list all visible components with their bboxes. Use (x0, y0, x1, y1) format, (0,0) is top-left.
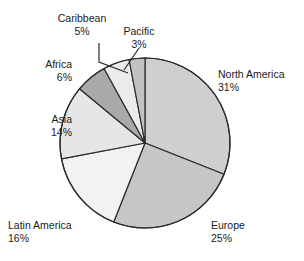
pie-slice-group (60, 58, 230, 228)
slice-label-asia-name: Asia (24, 113, 72, 126)
slice-label-pacific-name: Pacific (113, 25, 165, 38)
slice-label-latin-america-name: Latin America (8, 219, 72, 232)
slice-label-pacific: Pacific 3% (113, 25, 165, 51)
slice-label-latin-america-value: 16% (8, 232, 72, 245)
slice-label-africa-name: Africa (22, 58, 72, 71)
slice-label-latin-america: Latin America 16% (8, 219, 72, 245)
slice-label-north-america-name: North America (218, 68, 285, 81)
slice-label-europe-value: 25% (211, 232, 245, 245)
slice-label-pacific-value: 3% (113, 38, 165, 51)
slice-label-europe-name: Europe (211, 219, 245, 232)
slice-label-caribbean-name: Caribbean (46, 12, 118, 25)
slice-label-africa-value: 6% (22, 71, 72, 84)
slice-label-north-america: North America 31% (218, 68, 285, 94)
slice-label-caribbean: Caribbean 5% (46, 12, 118, 38)
pie-chart-figure: North America 31% Europe 25% Latin Ameri… (0, 0, 304, 261)
slice-label-asia-value: 14% (24, 126, 72, 139)
slice-label-north-america-value: 31% (218, 81, 285, 94)
slice-label-europe: Europe 25% (211, 219, 245, 245)
slice-label-africa: Africa 6% (22, 58, 72, 84)
slice-label-asia: Asia 14% (24, 113, 72, 139)
slice-label-caribbean-value: 5% (46, 25, 118, 38)
